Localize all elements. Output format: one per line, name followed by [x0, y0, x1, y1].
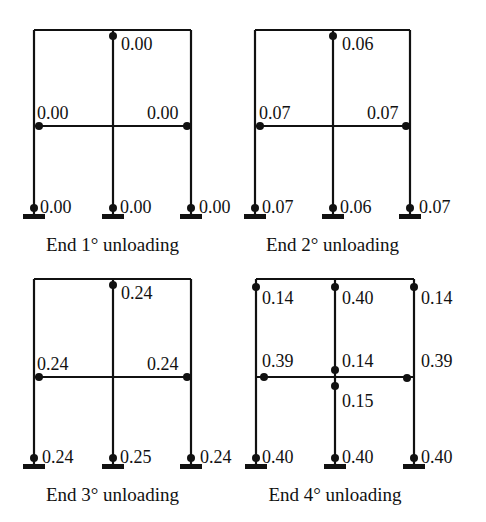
hinge-value-base-left: 0.00 — [40, 197, 72, 217]
hinge-value-beam-mid-lower: 0.15 — [342, 391, 374, 411]
plastic-hinge-base-mid — [331, 454, 339, 462]
plastic-hinge-beam-left — [35, 373, 43, 381]
hinge-value-beam-left: 0.39 — [262, 351, 294, 371]
plastic-hinge-beam-right — [183, 373, 191, 381]
plastic-hinge-base-left — [251, 204, 259, 212]
hinge-value-base-mid: 0.40 — [342, 447, 374, 467]
frame-panel-4: 0.140.400.140.390.140.390.150.400.400.40… — [245, 279, 453, 505]
hinge-value-top-mid: 0.00 — [121, 34, 153, 54]
plastic-hinge-beam-mid-upper — [331, 366, 339, 374]
plastic-hinge-top-mid — [109, 281, 117, 289]
hinge-value-beam-left: 0.07 — [259, 103, 291, 123]
frame-panel-2: 0.060.070.070.070.060.07End 2° unloading — [244, 30, 451, 255]
hinge-value-base-right: 0.40 — [421, 447, 453, 467]
plastic-hinge-base-left — [252, 454, 260, 462]
hinge-value-base-mid: 0.25 — [120, 447, 152, 467]
plastic-hinge-base-right — [406, 204, 414, 212]
frame-diagram-canvas: 0.000.000.000.000.000.00End 1° unloading… — [0, 0, 486, 522]
hinge-value-beam-right: 0.07 — [367, 103, 399, 123]
plastic-hinge-beam-left — [256, 122, 264, 130]
plastic-hinge-base-left — [30, 454, 38, 462]
fixed-support-icon — [180, 464, 202, 469]
hinge-value-base-right: 0.07 — [419, 197, 451, 217]
plastic-hinge-base-right — [187, 454, 195, 462]
hinge-value-beam-left: 0.00 — [37, 103, 69, 123]
panel-caption: End 1° unloading — [46, 234, 180, 255]
plastic-hinge-base-mid — [329, 204, 337, 212]
panel-caption: End 3° unloading — [46, 484, 180, 505]
fixed-support-icon — [399, 214, 421, 219]
hinge-value-base-left: 0.24 — [42, 447, 74, 467]
plastic-hinge-top-mid — [331, 283, 339, 291]
plastic-hinge-base-right — [410, 454, 418, 462]
frame-panel-1: 0.000.000.000.000.000.00End 1° unloading — [23, 30, 231, 255]
plastic-hinge-beam-right — [403, 374, 411, 382]
hinge-value-base-left: 0.07 — [262, 197, 294, 217]
plastic-hinge-top-left — [252, 283, 260, 291]
hinge-value-base-right: 0.00 — [199, 197, 231, 217]
hinge-value-beam-right: 0.39 — [421, 351, 453, 371]
plastic-hinge-top-mid — [109, 32, 117, 40]
hinge-value-beam-right: 0.00 — [147, 103, 179, 123]
plastic-hinge-base-left — [30, 204, 38, 212]
plastic-hinge-beam-mid-lower — [331, 382, 339, 390]
figure: 0.000.000.000.000.000.00End 1° unloading… — [0, 0, 486, 522]
plastic-hinge-top-right — [410, 283, 418, 291]
hinge-value-base-left: 0.40 — [262, 447, 294, 467]
panel-caption: End 4° unloading — [268, 484, 402, 505]
frame-panel-3: 0.240.240.240.240.250.24End 3° unloading — [23, 279, 232, 505]
plastic-hinge-beam-left — [35, 122, 43, 130]
hinge-value-beam-right: 0.24 — [147, 354, 179, 374]
hinge-value-top-mid: 0.24 — [121, 283, 153, 303]
plastic-hinge-top-mid — [329, 32, 337, 40]
hinge-value-top-right: 0.14 — [421, 288, 453, 308]
plastic-hinge-beam-right — [183, 122, 191, 130]
plastic-hinge-beam-left — [260, 373, 268, 381]
hinge-value-beam-left: 0.24 — [37, 354, 69, 374]
plastic-hinge-base-mid — [109, 454, 117, 462]
hinge-value-top-left: 0.14 — [262, 288, 294, 308]
hinge-value-beam-mid-upper: 0.14 — [342, 351, 374, 371]
hinge-value-top-mid: 0.40 — [342, 288, 374, 308]
panel-caption: End 2° unloading — [266, 234, 400, 255]
hinge-value-base-right: 0.24 — [200, 447, 232, 467]
hinge-value-base-mid: 0.00 — [120, 197, 152, 217]
hinge-value-base-mid: 0.06 — [340, 197, 372, 217]
plastic-hinge-beam-right — [402, 122, 410, 130]
hinge-value-top-mid: 0.06 — [342, 34, 374, 54]
plastic-hinge-base-right — [187, 204, 195, 212]
plastic-hinge-base-mid — [109, 204, 117, 212]
